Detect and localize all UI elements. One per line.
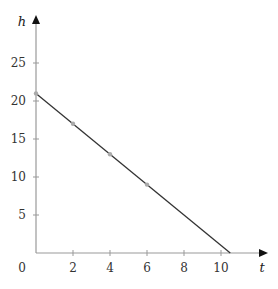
y-tick-label: 20 xyxy=(11,94,26,108)
y-axis-label: h xyxy=(18,14,26,29)
y-axis-arrow-icon xyxy=(32,15,40,24)
line-chart: th0 246810510152025 xyxy=(0,0,278,289)
data-line xyxy=(36,93,230,253)
y-tick-label: 10 xyxy=(11,170,26,184)
y-tick-label: 25 xyxy=(11,56,26,70)
ticks: 246810510152025 xyxy=(11,56,229,275)
x-tick-label: 6 xyxy=(143,261,151,275)
x-tick-label: 2 xyxy=(69,261,77,275)
data-point xyxy=(145,182,149,186)
data-point xyxy=(34,91,38,95)
y-tick-label: 5 xyxy=(18,208,26,222)
x-axis-arrow-icon xyxy=(259,249,268,257)
x-tick-label: 4 xyxy=(106,261,114,275)
series xyxy=(34,91,230,253)
data-point xyxy=(108,152,112,156)
origin-label: 0 xyxy=(18,261,26,275)
data-point xyxy=(71,122,75,126)
x-tick-label: 10 xyxy=(213,261,228,275)
x-tick-label: 8 xyxy=(180,261,188,275)
x-axis-label: t xyxy=(259,260,265,275)
axes: th0 xyxy=(18,14,268,275)
y-tick-label: 15 xyxy=(11,132,26,146)
